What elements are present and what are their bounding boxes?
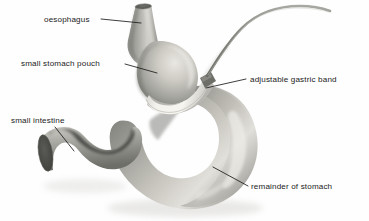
band-tube-shadow [203, 46, 228, 80]
label-text-small-intestine: small intestine [11, 116, 65, 125]
label-adjustable-gastric-band: adjustable gastric band [206, 75, 337, 88]
label-text-small-stomach-pouch: small stomach pouch [21, 59, 100, 68]
gastric-band-diagram: oesophagus small stomach pouch adjustabl… [0, 0, 369, 221]
band-tube-highlight [208, 8, 329, 75]
label-text-remainder-of-stomach: remainder of stomach [251, 182, 332, 191]
intestine-drop-shadow [43, 179, 127, 193]
label-text-oesophagus: oesophagus [44, 15, 90, 24]
label-oesophagus: oesophagus [44, 15, 141, 24]
label-text-adjustable-gastric-band: adjustable gastric band [250, 75, 337, 84]
band-connecting-tube [207, 6, 330, 76]
diagram-canvas: oesophagus small stomach pouch adjustabl… [0, 0, 369, 221]
small-stomach-pouch [137, 41, 198, 105]
